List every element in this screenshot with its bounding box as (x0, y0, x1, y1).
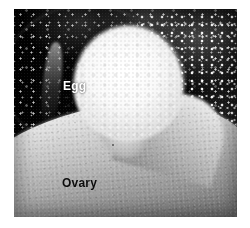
figure-container: Egg Ovary (0, 0, 250, 228)
micrograph-image: Egg Ovary (14, 9, 237, 217)
egg-rim-highlight (72, 24, 186, 143)
